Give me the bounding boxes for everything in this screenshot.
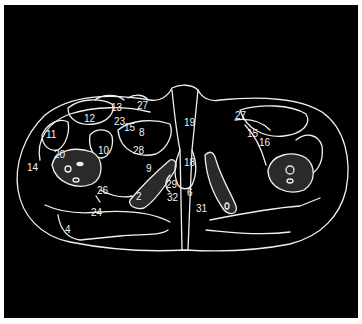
- label-4: 4: [65, 225, 71, 235]
- label-2: 2: [136, 192, 142, 202]
- label-6: 6: [187, 188, 193, 198]
- label-29: 29: [166, 180, 177, 190]
- label-19: 19: [184, 118, 195, 128]
- label-27-left: 27: [137, 101, 148, 111]
- label-11: 11: [46, 130, 56, 140]
- label-13: 13: [111, 103, 122, 113]
- label-16: 16: [259, 138, 270, 148]
- label-31: 31: [196, 204, 207, 214]
- label-28: 28: [133, 146, 144, 156]
- label-18: 18: [184, 158, 195, 168]
- anatomy-outline-drawing: [0, 0, 362, 324]
- label-24: 24: [91, 208, 102, 218]
- label-12: 12: [84, 114, 95, 124]
- label-10: 10: [98, 146, 109, 156]
- label-32: 32: [167, 193, 178, 203]
- label-20: 20: [54, 150, 65, 160]
- label-14: 14: [27, 163, 38, 173]
- label-15-right: 15: [247, 129, 258, 139]
- label-9: 9: [146, 164, 152, 174]
- label-27-right: 27: [235, 111, 246, 121]
- label-15-left: 15: [124, 123, 135, 133]
- label-26: 26: [97, 186, 108, 196]
- label-8: 8: [139, 128, 145, 138]
